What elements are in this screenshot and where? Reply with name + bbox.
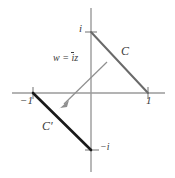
label-mapping-equation: w = iz <box>53 52 78 63</box>
diagram-canvas <box>0 0 175 178</box>
complex-plane-diagram: i −i −1 1 C C′ w = iz <box>0 0 175 178</box>
mapping-z: z <box>74 52 78 63</box>
label-contour-c: C <box>121 45 129 57</box>
mapping-w: w <box>53 52 60 63</box>
label-contour-c-prime: C′ <box>42 120 53 132</box>
label-point-i: i <box>79 23 82 34</box>
mapping-equals: = <box>62 52 69 63</box>
label-point-one: 1 <box>146 95 152 106</box>
label-point-negative-one: −1 <box>20 95 33 106</box>
label-point-negative-i: −i <box>100 142 110 152</box>
mapping-i-conjugate: i <box>71 52 74 63</box>
contour-c-segment <box>91 32 148 93</box>
mapping-arrow-shaft <box>64 62 107 104</box>
